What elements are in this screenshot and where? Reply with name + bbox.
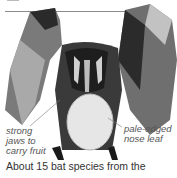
caption-text: About 15 bat species from the — [6, 160, 146, 172]
annotation-line: carry fruit — [6, 146, 46, 156]
annotation-strong-jaws: strong jaws to carry fruit — [6, 126, 46, 156]
fruit-icon — [67, 94, 113, 150]
annotation-line: nose leaf — [124, 134, 172, 144]
annotation-nose-leaf: pale-edged nose leaf — [124, 124, 172, 144]
